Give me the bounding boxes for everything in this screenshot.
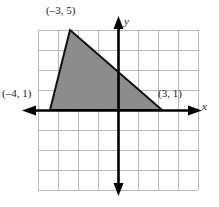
x-axis-arrow-left xyxy=(22,106,36,116)
vertex-label-apex: (–3, 5) xyxy=(46,5,75,16)
coordinate-plane-figure: (–3, 5) (–4, 1) (3, 1) x y xyxy=(0,0,219,207)
vertex-label-bottom-left: (–4, 1) xyxy=(2,88,31,99)
y-axis-arrow-up xyxy=(114,16,124,29)
y-axis-label: y xyxy=(124,16,129,27)
y-axis-arrow-down xyxy=(114,183,124,196)
x-axis-arrow-right xyxy=(188,106,202,116)
coordinate-plane-svg xyxy=(0,0,219,207)
vertex-label-bottom-right: (3, 1) xyxy=(158,88,182,99)
x-axis-label: x xyxy=(202,101,207,112)
